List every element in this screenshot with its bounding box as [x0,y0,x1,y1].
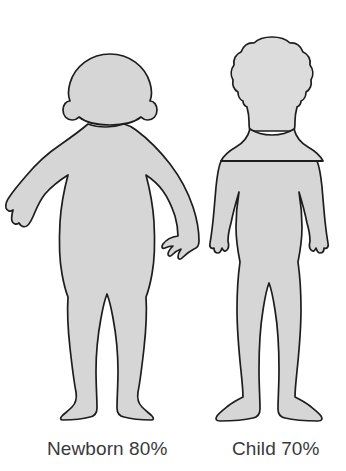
caption-row: Newborn 80% Child 70% [0,437,346,471]
child-head [231,37,313,131]
figure-newborn [6,54,199,420]
figure-child [210,37,329,421]
body-figures-svg [0,0,346,471]
newborn-head [63,54,157,125]
child-body [210,161,329,421]
caption-child: Child 70% [232,437,320,461]
bsa-illustration: Newborn 80% Child 70% [0,0,346,471]
newborn-body [6,124,199,420]
child-upper-chest [221,129,323,161]
caption-newborn: Newborn 80% [47,437,167,461]
